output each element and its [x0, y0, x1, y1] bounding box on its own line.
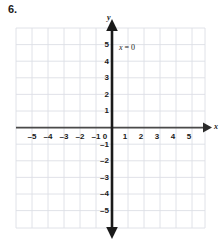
x-tick-label-4: 4: [168, 132, 178, 141]
x-tick-label-5: 5: [184, 132, 194, 141]
y-tick-label-neg1: –1: [94, 140, 109, 149]
x-tick-label-neg3: –3: [56, 132, 72, 141]
y-tick-label-5: 5: [97, 40, 109, 49]
x-tick-label-1: 1: [120, 132, 130, 141]
y-tick-label-2: 2: [97, 90, 109, 99]
y-tick-label-4: 4: [97, 57, 109, 66]
y-tick-label-3: 3: [97, 73, 109, 82]
y-axis-label: y: [107, 13, 111, 22]
x-axis-arrowhead: [203, 123, 212, 133]
y-tick-label-neg4: –4: [94, 189, 109, 198]
graph-svg: [0, 0, 224, 241]
line-equation-annotation: x = 0: [119, 43, 135, 52]
x-tick-label-3: 3: [152, 132, 162, 141]
x-tick-label-neg2: –2: [72, 132, 88, 141]
y-tick-label-1: 1: [97, 106, 109, 115]
x-tick-label-neg5: –5: [24, 132, 40, 141]
x-axis-label: x: [214, 122, 218, 131]
x-tick-label-2: 2: [136, 132, 146, 141]
y-axis-arrowhead-bottom: [106, 227, 118, 239]
y-tick-label-neg3: –3: [94, 173, 109, 182]
coordinate-graph: 6.: [0, 0, 224, 241]
equation-rest: = 0: [123, 43, 136, 52]
y-tick-label-neg5: –5: [94, 206, 109, 215]
x-tick-label-neg4: –4: [40, 132, 56, 141]
y-tick-label-neg2: –2: [94, 156, 109, 165]
